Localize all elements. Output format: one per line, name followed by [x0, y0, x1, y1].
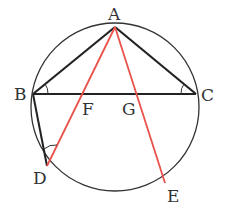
label-a: A	[107, 4, 121, 24]
geometry-diagram: A B C D E F G	[0, 0, 226, 219]
segment-ad	[47, 27, 115, 166]
angle-mark-b	[45, 84, 48, 94]
label-b: B	[14, 84, 27, 104]
segment-bd	[33, 94, 47, 166]
label-f: F	[82, 99, 94, 119]
angle-mark-c	[181, 84, 184, 94]
label-d: D	[33, 168, 47, 188]
circumcircle	[31, 23, 199, 191]
label-e: E	[167, 186, 179, 206]
label-c: C	[201, 85, 214, 105]
label-g: G	[122, 99, 136, 119]
